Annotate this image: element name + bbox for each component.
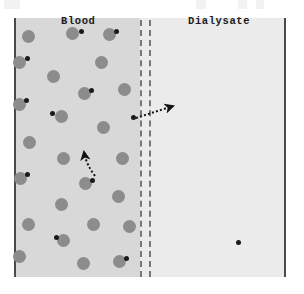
blood-cell-particle xyxy=(57,152,70,165)
blood-cell-particle xyxy=(97,121,110,134)
dialysis-diffusion-figure: Blood Dialysate xyxy=(0,0,304,294)
bound-solute-particle xyxy=(114,29,119,34)
blood-cell-particle xyxy=(118,83,131,96)
blood-cell-particle xyxy=(55,198,68,211)
scan-artifact xyxy=(196,0,206,9)
bound-solute-particle xyxy=(54,235,59,240)
blood-cell-particle xyxy=(112,190,125,203)
dialysate-compartment-label: Dialysate xyxy=(188,15,250,27)
membrane-dashed-line-outer xyxy=(149,20,151,277)
bound-solute-particle xyxy=(25,172,30,177)
blood-cell-particle xyxy=(23,136,36,149)
scan-artifact xyxy=(4,0,20,9)
blood-compartment-label: Blood xyxy=(61,15,96,27)
bound-solute-particle xyxy=(124,256,129,261)
blood-cell-particle xyxy=(13,250,26,263)
bound-solute-particle xyxy=(24,98,29,103)
blood-cell-particle xyxy=(47,70,60,83)
bound-solute-particle xyxy=(50,111,55,116)
membrane-dashed-line-inner xyxy=(140,20,142,277)
bound-solute-particle xyxy=(25,56,30,61)
solute-crossing-membrane xyxy=(131,115,136,120)
blood-cell-particle xyxy=(95,56,108,69)
blood-cell-particle xyxy=(123,220,136,233)
blood-cell-particle xyxy=(87,218,100,231)
blood-cell-particle xyxy=(22,218,35,231)
blood-cell-particle xyxy=(13,56,26,69)
bound-solute-particle xyxy=(90,178,95,183)
bound-solute-particle xyxy=(79,29,84,34)
blood-cell-particle xyxy=(116,152,129,165)
blood-cell-particle xyxy=(55,110,68,123)
blood-cell-particle xyxy=(77,257,90,270)
blood-cell-particle xyxy=(66,27,79,40)
scan-artifact xyxy=(238,0,247,9)
dialysate-compartment xyxy=(140,18,286,277)
blood-cell-particle xyxy=(22,30,35,43)
bound-solute-particle xyxy=(89,88,94,93)
solute-in-dialysate xyxy=(236,240,241,245)
scan-artifact xyxy=(256,0,264,9)
